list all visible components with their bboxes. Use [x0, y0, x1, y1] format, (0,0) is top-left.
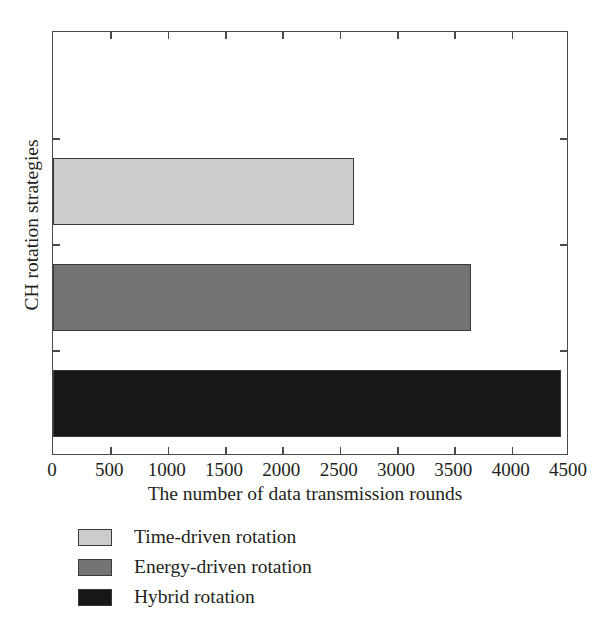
- bar-chart-figure: 050010001500200025003000350040004500 The…: [0, 0, 610, 625]
- x-tick-2500: [340, 447, 342, 454]
- y-tick-right-1: [560, 350, 567, 352]
- x-tick-1000: [168, 447, 170, 454]
- legend-label: Time-driven rotation: [134, 526, 296, 548]
- x-tick-top-2000: [282, 32, 284, 39]
- x-tick-3500: [454, 447, 456, 454]
- legend-item: Hybrid rotation: [78, 584, 312, 610]
- legend-swatch-icon: [78, 529, 112, 546]
- x-tick-top-500: [110, 32, 112, 39]
- x-tick-3000: [397, 447, 399, 454]
- x-tick-label-3500: 3500: [434, 459, 472, 481]
- y-tick-right-3: [560, 138, 567, 140]
- y-axis-label-container: CH rotation strategies: [17, 60, 47, 390]
- y-tick-left-2: [53, 244, 60, 246]
- x-tick-label-1000: 1000: [148, 459, 186, 481]
- chart-legend: Time-driven rotationEnergy-driven rotati…: [78, 524, 312, 610]
- legend-label: Hybrid rotation: [134, 586, 255, 608]
- x-tick-label-4000: 4000: [492, 459, 530, 481]
- y-tick-right-2: [560, 244, 567, 246]
- x-tick-label-1500: 1500: [205, 459, 243, 481]
- x-axis-label: The number of data transmission rounds: [0, 483, 610, 505]
- y-tick-left-1: [53, 350, 60, 352]
- x-tick-label-3000: 3000: [377, 459, 415, 481]
- x-tick-top-1500: [225, 32, 227, 39]
- bar-energy-driven-rotation: [53, 264, 471, 331]
- legend-item: Time-driven rotation: [78, 524, 312, 550]
- plot-area: [52, 31, 568, 455]
- x-tick-500: [110, 447, 112, 454]
- bar-hybrid-rotation: [53, 370, 561, 437]
- y-axis-label: CH rotation strategies: [21, 139, 43, 310]
- x-tick-label-2000: 2000: [262, 459, 300, 481]
- x-tick-top-3000: [397, 32, 399, 39]
- x-tick-label-2500: 2500: [320, 459, 358, 481]
- legend-swatch-icon: [78, 559, 112, 576]
- x-tick-top-1000: [168, 32, 170, 39]
- x-tick-label-500: 500: [95, 459, 124, 481]
- x-tick-4000: [512, 447, 514, 454]
- bar-time-driven-rotation: [53, 158, 354, 225]
- x-tick-1500: [225, 447, 227, 454]
- legend-item: Energy-driven rotation: [78, 554, 312, 580]
- x-tick-label-0: 0: [47, 459, 57, 481]
- legend-label: Energy-driven rotation: [134, 556, 312, 578]
- x-tick-label-4500: 4500: [549, 459, 587, 481]
- y-tick-left-3: [53, 138, 60, 140]
- x-tick-top-4000: [512, 32, 514, 39]
- x-tick-2000: [282, 447, 284, 454]
- x-tick-top-3500: [454, 32, 456, 39]
- x-tick-top-2500: [340, 32, 342, 39]
- legend-swatch-icon: [78, 589, 112, 606]
